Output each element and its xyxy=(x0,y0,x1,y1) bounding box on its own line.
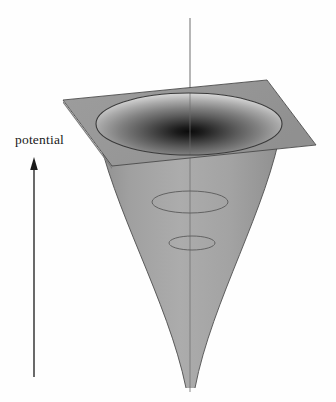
potential-arrow xyxy=(30,157,38,377)
potential-arrow-head xyxy=(30,157,38,170)
funnel-mouth xyxy=(96,93,282,155)
potential-axis-label: potential xyxy=(15,132,64,148)
figure-root: potential xyxy=(0,0,336,402)
potential-well-diagram xyxy=(0,0,336,402)
